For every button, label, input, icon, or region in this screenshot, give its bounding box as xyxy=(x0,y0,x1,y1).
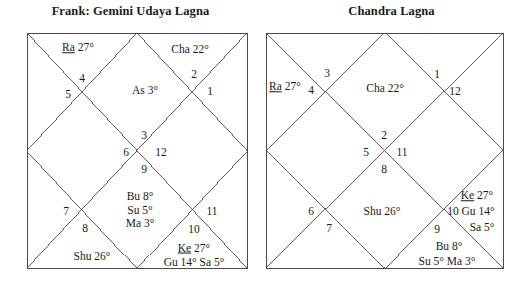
house-number: 10 xyxy=(447,205,459,218)
planet-label-bu_su_ma: Bu 8°Su 5°Ma 3° xyxy=(126,190,155,231)
planet-label-line: Su 5° Ma 3° xyxy=(419,255,476,269)
house-number: 1 xyxy=(434,68,440,81)
planet-label-sa: Sa 5° xyxy=(470,221,495,235)
house-number: 8 xyxy=(82,222,88,235)
planet-label-cha: Cha 22° xyxy=(366,82,404,96)
planet-label-shu: Shu 26° xyxy=(364,205,401,219)
house-number: 3 xyxy=(141,129,147,142)
planet-label-line: Su 5° xyxy=(126,203,155,217)
chart-chandra-lagna: Chandra Lagna 341122511867109Ra 27°Cha 2… xyxy=(261,0,522,281)
planet-label-line: As 3° xyxy=(132,84,158,98)
house-number: 12 xyxy=(155,146,167,159)
planet-label-line: Ra 27° xyxy=(62,41,94,55)
planet-label-line: Sa 5° xyxy=(470,221,495,235)
house-number: 11 xyxy=(396,146,407,159)
planet-label-line: Cha 22° xyxy=(171,43,209,57)
planet-label-ra: Ra 27° xyxy=(62,41,94,55)
planet-label-line: Ke 27° xyxy=(164,242,225,256)
planet-label-su_ma: Su 5° Ma 3° xyxy=(419,255,476,269)
planet-label-ke_gu_sa: Ke 27°Gu 14° Sa 5° xyxy=(164,242,225,269)
house-number: 11 xyxy=(206,205,217,218)
planet-label-line: Ra 27° xyxy=(269,80,301,94)
planet-label-line: Bu 8° xyxy=(126,190,155,204)
house-number: 9 xyxy=(141,163,147,176)
planet-label-shu: Shu 26° xyxy=(74,250,111,264)
house-number: 2 xyxy=(381,129,387,142)
house-number: 5 xyxy=(65,88,71,101)
house-number: 3 xyxy=(324,67,330,80)
house-number: 10 xyxy=(188,223,200,236)
house-number: 7 xyxy=(63,205,69,218)
chart-grid-left xyxy=(0,0,261,281)
chart-grid-right xyxy=(261,0,522,281)
planet-label-line: Bu 8° xyxy=(436,240,463,254)
planet-label-line: Shu 26° xyxy=(74,250,111,264)
planet-label-gu: Gu 14° xyxy=(461,205,494,219)
planet-label-bu: Bu 8° xyxy=(436,240,463,254)
planet-label-line: Cha 22° xyxy=(366,82,404,96)
planet-label-line: Gu 14° xyxy=(461,205,494,219)
house-number: 4 xyxy=(308,84,314,97)
house-number: 8 xyxy=(381,163,387,176)
house-number: 9 xyxy=(434,223,440,236)
house-number: 1 xyxy=(207,85,213,98)
planet-label-line: Ke 27° xyxy=(461,189,493,203)
house-number: 4 xyxy=(79,72,85,85)
planet-label-line: Ma 3° xyxy=(126,217,155,231)
house-number: 5 xyxy=(363,146,369,159)
house-number: 6 xyxy=(308,205,314,218)
house-number: 7 xyxy=(326,222,332,235)
planet-label-line: Shu 26° xyxy=(364,205,401,219)
planet-label-line: Gu 14° Sa 5° xyxy=(164,255,225,269)
planet-label-ra: Ra 27° xyxy=(269,80,301,94)
house-number: 12 xyxy=(449,85,461,98)
house-number: 2 xyxy=(191,68,197,81)
planet-label-cha: Cha 22° xyxy=(171,43,209,57)
house-number: 6 xyxy=(123,146,129,159)
planet-label-as: As 3° xyxy=(132,84,158,98)
chart-frank-gemini-udaya-lagna: Frank: Gemini Udaya Lagna 45213612978111… xyxy=(0,0,261,281)
planet-label-ke: Ke 27° xyxy=(461,189,493,203)
